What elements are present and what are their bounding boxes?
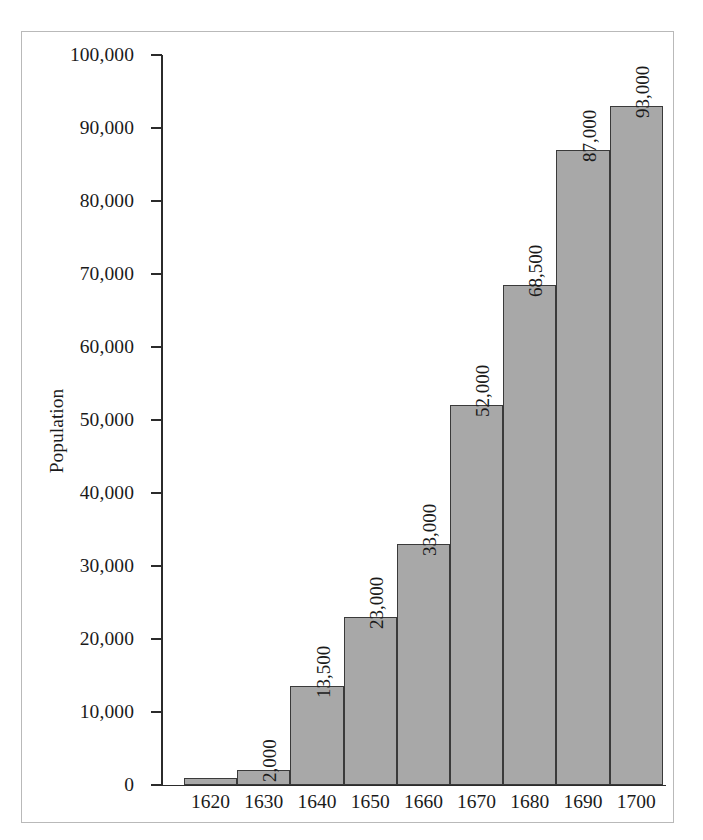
bar-chart: Population 010,00020,00030,00040,00050,0… — [0, 0, 703, 840]
y-axis-tick-label: 20,000 — [0, 629, 146, 649]
bar[interactable] — [503, 285, 556, 785]
x-axis-tick-label: 1700 — [604, 792, 669, 812]
y-axis-tick-label: 60,000 — [0, 337, 146, 357]
y-axis-tick-label: 0 — [0, 775, 146, 795]
bar[interactable] — [450, 405, 503, 785]
bar-value-label: 2,000 — [260, 740, 279, 783]
y-axis-tick — [151, 711, 162, 713]
bar[interactable] — [184, 778, 237, 785]
bar-value-label: 93,000 — [633, 66, 652, 118]
bar-value-label: 87,000 — [580, 110, 599, 162]
bar[interactable] — [556, 150, 609, 785]
y-axis-tick — [151, 200, 162, 202]
bar-value-label: 33,000 — [420, 504, 439, 556]
y-axis-tick — [151, 784, 162, 786]
y-axis-tick-label: 80,000 — [0, 191, 146, 211]
bar[interactable] — [397, 544, 450, 785]
bar-value-label: 52,000 — [473, 365, 492, 417]
y-axis-tick — [151, 419, 162, 421]
y-axis-tick-label: 50,000 — [0, 410, 146, 430]
y-axis-tick-label: 40,000 — [0, 483, 146, 503]
bar-value-label: 68,500 — [526, 245, 545, 297]
y-axis-tick — [151, 638, 162, 640]
y-axis-tick — [151, 565, 162, 567]
bar[interactable] — [344, 617, 397, 785]
bar-value-label: 13,500 — [314, 646, 333, 698]
y-axis-tick-label: 70,000 — [0, 264, 146, 284]
y-axis-title: Population — [46, 371, 68, 491]
y-axis-tick — [151, 127, 162, 129]
y-axis-tick-label: 90,000 — [0, 118, 146, 138]
bar[interactable] — [610, 106, 663, 785]
y-axis-tick-label: 30,000 — [0, 556, 146, 576]
y-axis-tick — [151, 54, 162, 56]
y-axis-tick-label: 10,000 — [0, 702, 146, 722]
y-axis-tick — [151, 346, 162, 348]
bar-value-label: 23,000 — [367, 577, 386, 629]
bar[interactable] — [290, 686, 343, 785]
y-axis-tick — [151, 273, 162, 275]
y-axis-tick-label: 100,000 — [0, 45, 146, 65]
y-axis-tick — [151, 492, 162, 494]
